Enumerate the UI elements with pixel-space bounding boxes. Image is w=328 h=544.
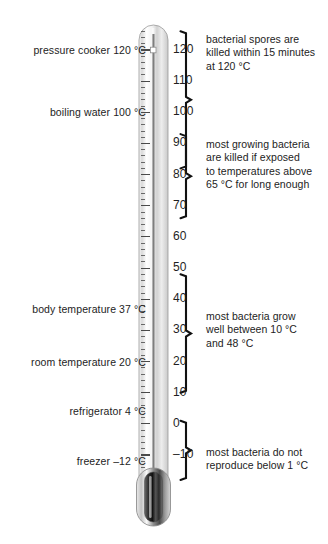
scale-number-80: 80: [173, 168, 187, 181]
annotation-grow-line-1: most bacteria grow: [206, 310, 324, 323]
scale-number-50: 50: [173, 261, 187, 274]
annotation-growing-bacteria-killed: most growing bacteria are killed if expo…: [206, 138, 324, 192]
annotation-bacteria-grow: most bacteria grow well between 10 °C an…: [206, 310, 324, 350]
annotation-grow-line-2: well between 10 °C: [206, 323, 324, 336]
annotation-spores-line-3: at 120 °C: [206, 60, 324, 73]
annotation-killed-line-1: most growing bacteria: [206, 138, 324, 151]
annotation-spores-line-2: killed within 15 minutes: [206, 46, 324, 59]
scale-number-90: 90: [173, 136, 187, 149]
scale-number-100: 100: [173, 105, 194, 118]
annotation-killed-line-4: 65 °C for long enough: [206, 178, 324, 191]
annotation-grow-line-3: and 48 °C: [206, 337, 324, 350]
reference-label-body-temperature: body temperature 37 °C: [32, 303, 146, 315]
thermometer-figure: pressure cooker 120 °C boiling water 100…: [0, 0, 328, 544]
scale-number-30: 30: [173, 323, 187, 336]
scale-number-40: 40: [173, 292, 187, 305]
reference-label-room-temperature: room temperature 20 °C: [31, 356, 146, 368]
annotation-spores: bacterial spores are killed within 15 mi…: [206, 33, 324, 73]
reference-label-freezer: freezer –12 °C: [77, 455, 146, 467]
scale-number-minus-10: –10: [173, 448, 194, 461]
reference-label-boiling-water: boiling water 100 °C: [50, 106, 146, 118]
reference-label-pressure-cooker: pressure cooker 120 °C: [33, 44, 146, 56]
scale-number-20: 20: [173, 355, 187, 368]
scale-number-120: 120: [173, 43, 194, 56]
scale-number-10: 10: [173, 386, 187, 399]
scale-number-70: 70: [173, 199, 187, 212]
annotation-reproduce-line-2: reproduce below 1 °C: [206, 459, 324, 472]
annotation-spores-line-1: bacterial spores are: [206, 33, 324, 46]
reference-label-refrigerator: refrigerator 4 °C: [69, 405, 146, 417]
scale-number-60: 60: [173, 230, 187, 243]
annotation-no-reproduce: most bacteria do not reproduce below 1 °…: [206, 446, 324, 473]
annotation-killed-line-2: are killed if exposed: [206, 151, 324, 164]
scale-number-0: 0: [173, 417, 180, 430]
annotation-reproduce-line-1: most bacteria do not: [206, 446, 324, 459]
annotation-killed-line-3: to temperatures above: [206, 165, 324, 178]
scale-number-110: 110: [173, 74, 193, 87]
